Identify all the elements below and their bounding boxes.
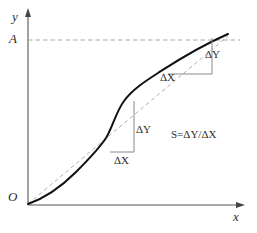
- x-axis-label: x: [233, 210, 239, 223]
- middle-triangle-rise-label: ΔY: [136, 124, 151, 135]
- figure-canvas: [0, 0, 257, 233]
- slope-formula-label: S=ΔY/ΔX: [171, 129, 216, 140]
- y-axis-label: y: [12, 10, 18, 23]
- upper-triangle-run-label: ΔX: [160, 72, 175, 83]
- growth-curve: [28, 34, 228, 204]
- x-axis-arrow-icon: [236, 202, 245, 208]
- slope-diagram-figure: y x A O ΔY ΔX ΔY ΔX S=ΔY/ΔX: [0, 0, 257, 233]
- y-axis-arrow-icon: [25, 8, 31, 17]
- middle-triangle-run-label: ΔX: [114, 155, 129, 166]
- origin-label: O: [8, 190, 17, 203]
- level-a-label: A: [9, 32, 17, 45]
- middle-slope-triangle: [110, 101, 134, 152]
- average-slope-chord: [28, 36, 228, 204]
- upper-triangle-rise-label: ΔY: [205, 49, 220, 60]
